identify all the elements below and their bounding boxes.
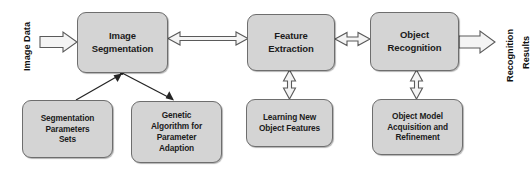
node-line: Adaption: [148, 143, 205, 154]
node-feature-extraction[interactable]: Feature Extraction: [247, 14, 335, 71]
node-line: Refinement: [384, 132, 451, 143]
connector-params-to-seg: [76, 74, 122, 101]
connector-objectmodel-recognition: [411, 70, 423, 99]
label-recognition-results-line2: Results: [521, 36, 531, 69]
diagram-canvas: .hollow{fill:#f4f4f4;stroke:#5a5a5a;stro…: [0, 0, 532, 172]
connector-input-arrow: [40, 32, 77, 52]
label-recognition-results-line1: Recognition: [505, 29, 515, 82]
node-line: Extraction: [265, 43, 316, 55]
node-object-recognition[interactable]: Object Recognition: [370, 12, 459, 71]
node-line: Algorithm for: [148, 121, 205, 132]
node-line: Object: [385, 29, 445, 41]
node-line: Parameter: [148, 132, 205, 143]
node-line: Acquisition and: [384, 122, 451, 133]
node-line: Learning New: [256, 112, 323, 123]
node-line: Genetic: [148, 110, 205, 121]
connector-seg-to-genetic: [120, 71, 174, 101]
connector-object-to-output: [459, 31, 495, 53]
connector-seg-to-feature: [168, 32, 248, 45]
connector-feature-to-object: [335, 33, 370, 46]
node-segmentation-parameters-sets[interactable]: Segmentation Parameters Sets: [22, 100, 113, 158]
node-genetic-algorithm[interactable]: Genetic Algorithm for Parameter Adaption: [131, 101, 222, 163]
node-line: Segmentation: [38, 113, 98, 124]
node-line: Segmentation: [89, 43, 157, 55]
node-object-model[interactable]: Object Model Acquisition and Refinement: [372, 99, 463, 155]
node-line: Image: [89, 30, 157, 42]
node-line: Object Model: [384, 111, 451, 122]
label-image-data: Image Data: [22, 22, 32, 71]
node-line: Parameters: [38, 124, 98, 135]
node-line: Object Features: [256, 123, 323, 134]
node-line: Recognition: [385, 42, 445, 54]
node-learning-new-object-features[interactable]: Learning New Object Features: [246, 99, 333, 147]
node-line: Sets: [38, 134, 98, 145]
node-image-segmentation[interactable]: Image Segmentation: [77, 12, 168, 73]
connector-learning-feature: [284, 70, 296, 99]
node-line: Feature: [265, 30, 316, 42]
